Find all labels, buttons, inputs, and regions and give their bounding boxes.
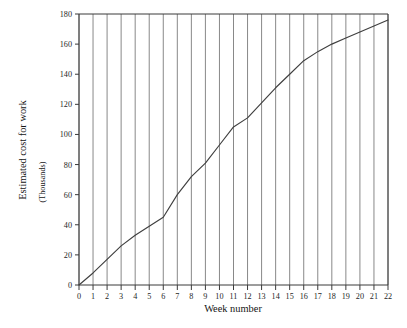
- x-tick-label-14: 14: [272, 292, 280, 301]
- x-tick-label-3: 3: [119, 292, 123, 301]
- x-tick-label-4: 4: [133, 292, 137, 301]
- y-tick-marks: [75, 14, 79, 285]
- x-tick-label-21: 21: [370, 292, 378, 301]
- x-tick-label-9: 9: [203, 292, 207, 301]
- gridlines-group: [79, 14, 388, 285]
- x-tick-label-2: 2: [105, 292, 109, 301]
- x-tick-label-13: 13: [257, 292, 265, 301]
- x-tick-label-6: 6: [161, 292, 165, 301]
- y-axis-subtitle: (Thousands): [38, 161, 47, 202]
- x-axis-title: Week number: [204, 303, 262, 314]
- x-tick-label-11: 11: [230, 292, 238, 301]
- chart-page: 012345678910111213141516171819202122 020…: [0, 0, 407, 328]
- x-tick-label-1: 1: [91, 292, 95, 301]
- y-tick-labels: 020406080100120140160180: [60, 10, 72, 290]
- x-tick-label-22: 22: [384, 292, 392, 301]
- x-tick-label-15: 15: [286, 292, 294, 301]
- y-tick-label-40: 40: [64, 221, 72, 230]
- y-tick-label-60: 60: [64, 191, 72, 200]
- x-tick-label-18: 18: [328, 292, 336, 301]
- y-tick-label-20: 20: [64, 251, 72, 260]
- x-tick-label-17: 17: [314, 292, 322, 301]
- x-tick-label-19: 19: [342, 292, 350, 301]
- x-tick-marks: [79, 285, 388, 290]
- x-tick-label-16: 16: [300, 292, 308, 301]
- x-tick-label-20: 20: [356, 292, 364, 301]
- y-tick-label-180: 180: [60, 10, 72, 19]
- x-tick-label-5: 5: [147, 292, 151, 301]
- y-tick-label-120: 120: [60, 100, 72, 109]
- y-tick-label-160: 160: [60, 40, 72, 49]
- y-tick-label-80: 80: [64, 161, 72, 170]
- x-tick-label-8: 8: [189, 292, 193, 301]
- x-tick-label-7: 7: [175, 292, 179, 301]
- line-chart: 012345678910111213141516171819202122 020…: [0, 0, 407, 328]
- y-tick-label-0: 0: [68, 281, 72, 290]
- x-tick-label-12: 12: [243, 292, 251, 301]
- x-tick-label-10: 10: [215, 292, 223, 301]
- y-tick-label-140: 140: [60, 70, 72, 79]
- y-tick-label-100: 100: [60, 130, 72, 139]
- x-tick-label-0: 0: [77, 292, 81, 301]
- y-axis-title: Estimated cost for work: [17, 99, 28, 199]
- x-tick-labels: 012345678910111213141516171819202122: [77, 292, 392, 301]
